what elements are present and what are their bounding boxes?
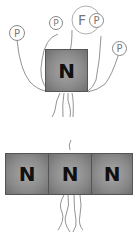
satellite-p-left: P (9, 25, 25, 41)
block-label: N (19, 162, 36, 186)
core-block: N (45, 49, 88, 92)
block-3: N (91, 153, 133, 195)
satellite-p-right: P (112, 41, 127, 56)
core-label: N (58, 59, 75, 83)
satellite-label: P (116, 43, 122, 54)
satellite-p-upper-left: P (49, 16, 63, 30)
satellite-label: P (93, 15, 99, 26)
block-2: N (48, 153, 92, 195)
satellite-label: P (53, 18, 58, 28)
satellite-label: F (78, 12, 86, 28)
satellite-p-top: P (89, 13, 104, 28)
satellite-f: F (78, 12, 86, 28)
block-1: N (5, 153, 49, 195)
satellite-label: P (14, 28, 20, 39)
block-label: N (104, 162, 121, 186)
block-label: N (62, 162, 79, 186)
